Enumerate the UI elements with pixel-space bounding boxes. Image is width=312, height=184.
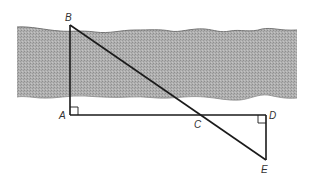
right-angle-A-icon	[70, 107, 78, 115]
label-B: B	[65, 12, 72, 23]
label-C: C	[194, 119, 202, 130]
label-E: E	[261, 164, 268, 175]
label-A: A	[58, 110, 66, 121]
label-D: D	[269, 110, 276, 121]
river-width-diagram: B A C D E	[0, 0, 312, 184]
river-region	[17, 27, 297, 100]
right-angle-D-icon	[258, 115, 266, 123]
